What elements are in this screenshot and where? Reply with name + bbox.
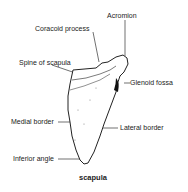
label-acromion: Acromion bbox=[107, 12, 137, 20]
diagram-title: scapula bbox=[79, 173, 107, 182]
label-lateral-border: Lateral border bbox=[120, 124, 164, 132]
label-glenoid-fossa: Glenoid fossa bbox=[130, 79, 173, 87]
label-inferior-angle: Inferior angle bbox=[13, 155, 54, 163]
label-medial-border: Medial border bbox=[11, 118, 54, 126]
label-spine-of-scapula: Spine of scapula bbox=[19, 59, 71, 67]
scapula-bone bbox=[68, 55, 128, 164]
label-coracoid-process: Coracoid process bbox=[35, 25, 89, 33]
scapula-illustration bbox=[0, 0, 188, 192]
